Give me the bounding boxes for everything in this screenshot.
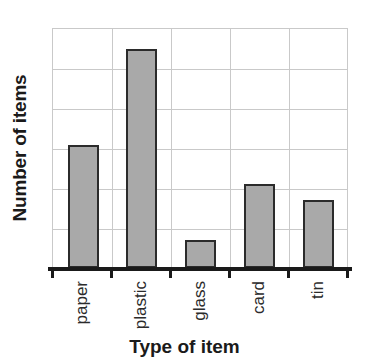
plot-area (52, 28, 348, 268)
x-tick-label-text: plastic (131, 281, 151, 329)
gridline-vertical (230, 29, 231, 268)
gridline-horizontal (53, 69, 347, 70)
bar-plastic (126, 49, 157, 268)
gridline-horizontal (53, 109, 347, 110)
gridline-vertical (171, 29, 172, 268)
y-axis-title-text: Number of items (9, 75, 31, 222)
x-axis-label-glass: glass (171, 281, 229, 335)
x-axis-line (48, 267, 352, 271)
x-axis-tick (169, 267, 172, 278)
x-axis-tick (51, 267, 54, 278)
x-axis-label-paper: paper (53, 281, 111, 335)
x-axis-tick (110, 267, 113, 278)
bar-chart-figure: Number of items paper plastic glass (0, 0, 369, 361)
x-tick-label-text: glass (190, 281, 210, 321)
bar-glass (185, 240, 216, 268)
bar-card (244, 184, 275, 268)
bar-tin (303, 200, 334, 268)
x-axis-label-plastic: plastic (112, 281, 170, 335)
gridline-vertical (112, 29, 113, 268)
x-axis-tick (346, 267, 349, 278)
x-tick-label-text: paper (72, 281, 92, 324)
x-axis-tick (287, 267, 290, 278)
bar-paper (68, 145, 99, 268)
x-tick-label-text: card (249, 281, 269, 314)
x-axis-label-card: card (230, 281, 288, 335)
x-axis-tick (228, 267, 231, 278)
gridline-vertical (289, 29, 290, 268)
y-axis-title: Number of items (2, 28, 38, 268)
x-axis-title: Type of item (0, 336, 369, 358)
x-tick-label-text: tin (308, 281, 328, 299)
x-axis-label-tin: tin (289, 281, 347, 335)
